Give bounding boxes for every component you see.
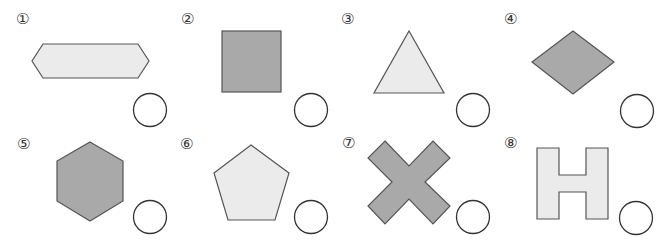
answer-circle-8[interactable] <box>0 0 671 252</box>
